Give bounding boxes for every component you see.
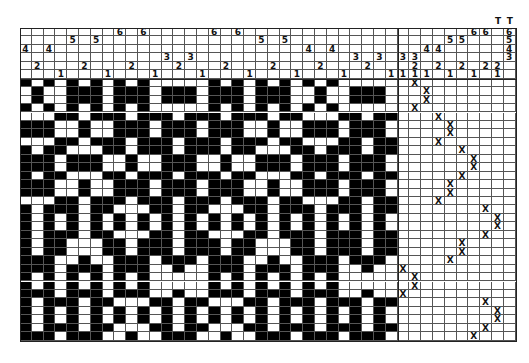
treadling-cell <box>409 332 421 340</box>
drawdown-cell <box>103 113 115 121</box>
drawdown-cell <box>32 113 44 121</box>
drawdown-cell <box>126 96 138 104</box>
drawdown-cell <box>268 146 280 154</box>
drawdown-cell <box>256 189 268 197</box>
drawdown-cell <box>280 214 292 222</box>
drawdown-cell <box>173 197 185 205</box>
drawdown-cell <box>20 282 32 290</box>
drawdown-cell <box>197 87 209 95</box>
threading-cell <box>126 70 138 78</box>
drawdown-cell <box>362 197 374 205</box>
tieup-cell <box>480 45 492 53</box>
treadling-cell <box>468 96 480 104</box>
drawdown-cell <box>79 129 91 137</box>
treadling-cell <box>468 180 480 188</box>
drawdown-cell <box>114 298 126 306</box>
drawdown-cell <box>221 189 233 197</box>
drawdown-cell <box>103 265 115 273</box>
drawdown-cell <box>20 197 32 205</box>
drawdown-cell <box>185 290 197 298</box>
drawdown-cell <box>44 96 56 104</box>
drawdown-cell <box>79 96 91 104</box>
drawdown-cell <box>44 239 56 247</box>
drawdown-cell <box>280 248 292 256</box>
drawdown-cell <box>244 282 256 290</box>
treadling-cell <box>457 265 469 273</box>
drawdown-cell <box>79 222 91 230</box>
drawdown-cell <box>327 189 339 197</box>
threading-cell <box>67 53 79 61</box>
threading-cell <box>103 28 115 36</box>
drawdown-cell <box>221 205 233 213</box>
drawdown-cell <box>303 189 315 197</box>
drawdown-cell <box>374 282 386 290</box>
drawdown-cell <box>256 222 268 230</box>
drawdown-cell <box>232 265 244 273</box>
drawdown-cell <box>162 324 174 332</box>
tieup-cell: 5 <box>457 36 469 44</box>
drawdown-cell <box>103 222 115 230</box>
drawdown-cell <box>221 298 233 306</box>
drawdown-cell <box>374 273 386 281</box>
threading-cell <box>20 62 32 70</box>
treadling-cell <box>409 239 421 247</box>
threading-cell: 2 <box>32 62 44 70</box>
drawdown-cell <box>362 87 374 95</box>
drawdown-cell <box>67 239 79 247</box>
drawdown-cell <box>55 307 67 315</box>
treadling-cell <box>409 248 421 256</box>
threading-cell <box>291 28 303 36</box>
drawdown-cell <box>67 214 79 222</box>
drawdown-cell <box>221 121 233 129</box>
drawdown-cell <box>67 197 79 205</box>
drawdown-cell <box>256 113 268 121</box>
drawdown-cell <box>20 248 32 256</box>
drawdown-cell <box>209 332 221 340</box>
threading-cell <box>20 70 32 78</box>
threading-cell <box>256 70 268 78</box>
drawdown-cell <box>244 79 256 87</box>
drawdown-cell <box>303 265 315 273</box>
treadling-cell <box>398 324 410 332</box>
drawdown-cell <box>232 222 244 230</box>
drawdown-cell <box>138 282 150 290</box>
treadling-cell <box>504 113 516 121</box>
drawdown-cell <box>103 138 115 146</box>
drawdown-cell <box>327 155 339 163</box>
treadling-cell <box>398 172 410 180</box>
drawdown-cell <box>150 290 162 298</box>
threading-cell <box>327 62 339 70</box>
drawdown-cell <box>44 172 56 180</box>
treadling-cell <box>457 282 469 290</box>
drawdown-cell <box>232 104 244 112</box>
drawdown-cell <box>173 205 185 213</box>
drawdown-cell <box>138 197 150 205</box>
drawdown-cell <box>44 273 56 281</box>
drawdown-cell <box>256 239 268 247</box>
drawdown-cell <box>185 214 197 222</box>
drawdown-cell <box>339 265 351 273</box>
tieup-cell <box>398 28 410 36</box>
drawdown-cell <box>173 248 185 256</box>
threading-cell: 6 <box>114 28 126 36</box>
drawdown-cell <box>173 273 185 281</box>
treadling-cell <box>480 163 492 171</box>
drawdown-cell <box>362 231 374 239</box>
tieup-cell <box>398 36 410 44</box>
drawdown-cell <box>221 214 233 222</box>
drawdown-cell <box>126 324 138 332</box>
drawdown-cell <box>280 197 292 205</box>
drawdown-cell <box>350 180 362 188</box>
drawdown-cell <box>339 273 351 281</box>
tieup-cell <box>480 70 492 78</box>
treadling-cell: X <box>398 290 410 298</box>
drawdown-cell <box>221 273 233 281</box>
drawdown-cell <box>197 307 209 315</box>
threading-cell <box>232 45 244 53</box>
treadling-cell <box>409 138 421 146</box>
drawdown-cell <box>162 79 174 87</box>
drawdown-cell <box>173 96 185 104</box>
drawdown-cell <box>303 104 315 112</box>
drawdown-cell <box>185 324 197 332</box>
drawdown-cell <box>386 282 398 290</box>
